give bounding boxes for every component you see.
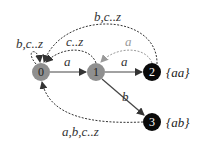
label-2-1: a bbox=[125, 34, 132, 49]
svg-text:0: 0 bbox=[38, 65, 44, 79]
label-2-0: b,c..z bbox=[94, 9, 121, 24]
svg-text:3: 3 bbox=[149, 115, 155, 129]
state-2: 2 bbox=[143, 63, 161, 81]
label-3-0: a,b,c..z bbox=[62, 124, 99, 139]
state-1: 1 bbox=[87, 63, 105, 81]
label-0-0: b,c..z bbox=[16, 36, 43, 51]
state-3: 3 bbox=[143, 113, 161, 131]
svg-text:1: 1 bbox=[93, 65, 99, 79]
svg-text:2: 2 bbox=[149, 65, 155, 79]
edge-1-0 bbox=[46, 50, 96, 63]
edge-2-0 bbox=[44, 24, 157, 64]
label-1-0: c..z bbox=[66, 34, 83, 49]
label-1-3: b bbox=[122, 89, 129, 104]
state-0: 0 bbox=[32, 63, 50, 81]
edge-0-0-self-loop bbox=[31, 52, 40, 64]
output-state-2: {aa} bbox=[166, 65, 190, 80]
label-0-1: a bbox=[64, 54, 71, 69]
output-state-3: {ab} bbox=[166, 115, 190, 130]
label-1-2: a bbox=[121, 54, 128, 69]
automaton-diagram: b,c..z a a b c..z a b,c..z a,b,c..z 0 1 … bbox=[0, 0, 205, 150]
